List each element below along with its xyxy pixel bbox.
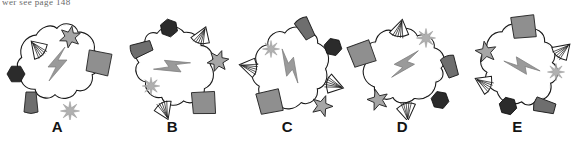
panel-a[interactable]: A xyxy=(0,8,115,152)
panel-d-label: D xyxy=(345,118,460,135)
dark-hexagon xyxy=(7,66,25,82)
dark-hexagon xyxy=(430,91,450,109)
panel-c[interactable]: C xyxy=(230,8,345,152)
panel-a-label: A xyxy=(0,118,115,135)
panel-b-label: B xyxy=(115,118,230,135)
gray-quadrilateral xyxy=(510,13,538,41)
panel-d[interactable]: D xyxy=(345,8,460,152)
panel-b[interactable]: B xyxy=(115,8,230,152)
panel-e-label: E xyxy=(460,118,575,135)
panel-c-stage xyxy=(230,8,345,120)
sunburst xyxy=(417,29,436,48)
wedge xyxy=(532,97,556,116)
sunburst xyxy=(262,40,279,57)
gray-quadrilateral xyxy=(190,89,217,116)
panel-a-stage xyxy=(0,8,115,120)
mental-rotation-figure: wer see page 148 ABCDE xyxy=(0,0,577,152)
sunburst xyxy=(142,77,159,94)
sunburst xyxy=(547,63,564,80)
panel-e-stage xyxy=(460,8,575,120)
panel-d-stage xyxy=(345,8,460,120)
panel-e[interactable]: E xyxy=(460,8,575,152)
page-header-text: wer see page 148 xyxy=(2,0,71,7)
wedge xyxy=(24,92,38,114)
blob-group xyxy=(19,25,99,97)
panel-b-stage xyxy=(115,8,230,120)
panel-c-label: C xyxy=(230,118,345,135)
